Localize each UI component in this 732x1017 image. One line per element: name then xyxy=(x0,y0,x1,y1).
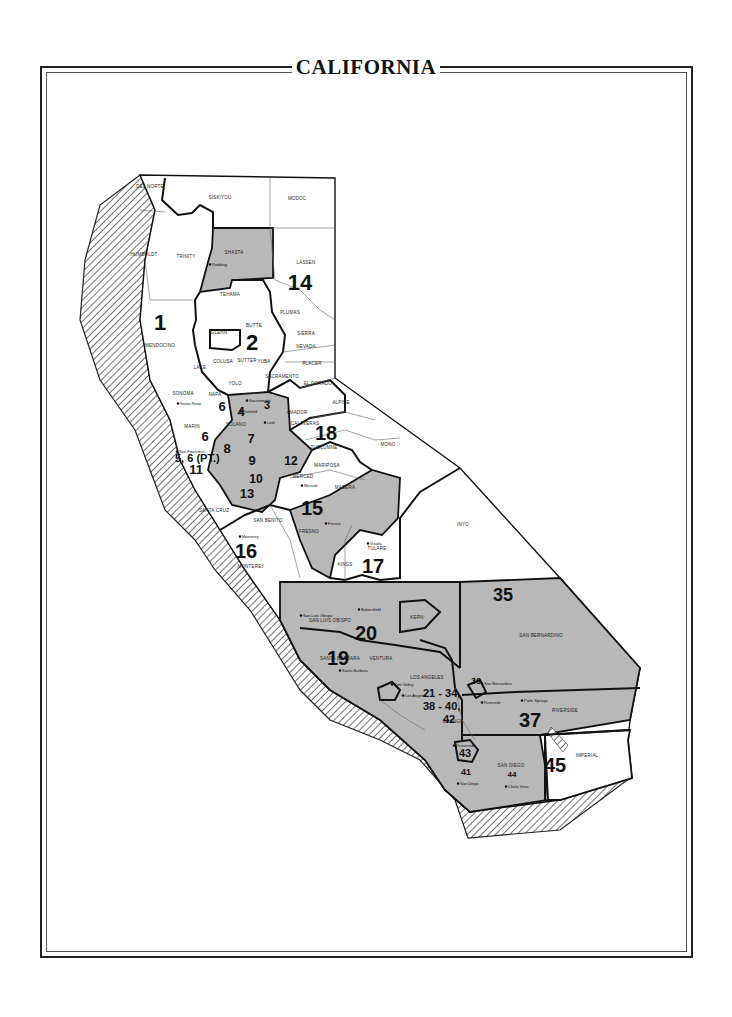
county-label: MODOC xyxy=(288,196,307,201)
district-number: 45 xyxy=(544,754,566,776)
district-number: 1 xyxy=(154,310,166,335)
county-label: PLACER xyxy=(302,361,322,366)
district-number: 37 xyxy=(519,709,541,731)
city-label: Merced xyxy=(304,483,317,488)
district-number: 18 xyxy=(315,422,337,444)
county-label: SHASTA xyxy=(225,250,244,255)
county-label: NEVADA xyxy=(296,344,315,349)
county-label: MARIPOSA xyxy=(314,463,339,468)
district-number: 36 xyxy=(471,676,481,686)
county-label: SONOMA xyxy=(172,391,193,396)
city-dot-icon xyxy=(246,399,248,401)
district-number: 10 xyxy=(249,472,263,486)
county-label: HUMBOLDT xyxy=(131,252,158,257)
district-note: 5, 6 (PT.) xyxy=(175,452,220,464)
county-label: SOLANO xyxy=(226,422,246,427)
city-dot-icon xyxy=(358,608,360,610)
city-label: Simi Valley xyxy=(394,682,414,687)
district-number: 43 xyxy=(459,747,471,759)
county-label: SAN BENITO xyxy=(253,518,282,523)
district-note: 21 - 34, xyxy=(423,687,460,699)
city-dot-icon xyxy=(239,535,241,537)
county-label: MARIN xyxy=(184,424,200,429)
district-number: 15 xyxy=(301,497,323,519)
city-dot-icon xyxy=(402,694,404,696)
county-label: COLUSA xyxy=(213,359,233,364)
county-label: IMPERIAL xyxy=(576,753,599,758)
city-label: Santa Rosa xyxy=(180,401,202,406)
city-dot-icon xyxy=(177,402,179,404)
city-dot-icon xyxy=(209,263,211,265)
county-label: YOLO xyxy=(228,381,242,386)
county-label: VENTURA xyxy=(370,656,393,661)
city-label: Riverside xyxy=(484,700,501,705)
county-label: PLUMAS xyxy=(280,310,300,315)
city-label: Fresno xyxy=(328,521,341,526)
city-label: San Bernardino xyxy=(484,681,513,686)
county-label: MERCED xyxy=(293,474,314,479)
county-label: LAKE xyxy=(194,365,206,370)
district-number: 3 xyxy=(264,399,270,411)
city-dot-icon xyxy=(264,421,266,423)
district-number: 4 xyxy=(237,404,245,419)
county-label: SISKIYOU xyxy=(209,195,232,200)
district-number: 9 xyxy=(248,453,255,468)
district-number: 8 xyxy=(223,441,230,456)
city-label: San Luis Obispo xyxy=(303,613,333,618)
district-number: 7 xyxy=(247,431,254,446)
city-dot-icon xyxy=(457,782,459,784)
city-dot-icon xyxy=(453,744,455,746)
district-number: 13 xyxy=(240,486,254,501)
district-number: 19 xyxy=(327,647,349,669)
city-dot-icon xyxy=(325,522,327,524)
city-dot-icon xyxy=(505,785,507,787)
county-label: TULARE xyxy=(368,546,387,551)
city-dot-icon xyxy=(367,542,369,544)
county-label: BUTTE xyxy=(246,323,262,328)
district-number: 12 xyxy=(284,454,298,468)
district-number: 17 xyxy=(362,555,384,577)
district-number: 20 xyxy=(355,622,377,644)
city-dot-icon xyxy=(301,484,303,486)
city-dot-icon xyxy=(300,614,302,616)
county-label: DEL NORTE xyxy=(136,184,163,189)
city-dot-icon xyxy=(339,669,341,671)
county-label: FRESNO xyxy=(299,529,319,534)
county-label: LASSEN xyxy=(297,260,316,265)
district-note: 38 - 40, xyxy=(423,700,460,712)
city-label: Redding xyxy=(212,262,227,267)
county-label: ALPINE xyxy=(332,400,349,405)
city-label: Fairfield xyxy=(243,409,257,414)
county-label: KINGS xyxy=(337,562,352,567)
city-label: San Diego xyxy=(460,781,479,786)
district-number: 16 xyxy=(235,540,257,562)
district-number: 2 xyxy=(246,330,258,355)
county-label: KERN xyxy=(410,615,423,620)
county-label: SANTA CRUZ xyxy=(199,508,229,513)
city-label: Chula Vista xyxy=(508,784,529,789)
county-label: MADERA xyxy=(335,485,355,490)
county-label: GLENN xyxy=(211,330,228,335)
county-label: TEHAMA xyxy=(220,292,240,297)
county-label: YUBA xyxy=(257,359,270,364)
city-label: Bakersfield xyxy=(361,607,381,612)
county-label: EL DORADO xyxy=(304,381,332,386)
city-dot-icon xyxy=(521,699,523,701)
county-label: SAN LUIS OBISPO xyxy=(309,618,351,623)
county-label: TRINITY xyxy=(177,254,196,259)
county-label: SUTTER xyxy=(237,358,257,363)
county-label: MONTEREY xyxy=(237,564,264,569)
city-label: Lodi xyxy=(267,420,275,425)
district-number: 6 xyxy=(201,429,208,444)
district-number: 11 xyxy=(189,462,203,477)
city-label: Palm Springs xyxy=(524,698,548,703)
county-label: SAN DIEGO xyxy=(498,763,525,768)
county-label: INYO xyxy=(457,522,469,527)
district-note: 42 xyxy=(443,713,455,725)
california-map: DEL NORTESISKIYOUMODOCHUMBOLDTTRINITYSHA… xyxy=(0,0,732,1017)
county-label: SAN BERNARDINO xyxy=(519,633,563,638)
district-number: 14 xyxy=(288,270,313,295)
county-label: LOS ANGELES xyxy=(410,675,443,680)
city-dot-icon xyxy=(481,682,483,684)
county-label: AMADOR xyxy=(287,410,309,415)
